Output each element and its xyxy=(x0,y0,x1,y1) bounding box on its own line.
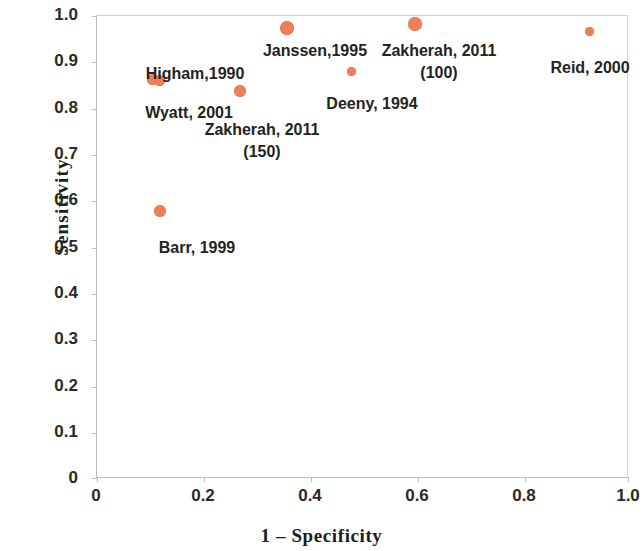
point-label-barr: Barr, 1999 xyxy=(117,238,277,257)
x-tick-label-0: 0 xyxy=(66,486,126,506)
x-tick-label-0.8: 0.8 xyxy=(494,486,554,506)
data-point-zakherah-150[interactable] xyxy=(234,85,246,97)
x-tick-mark-0.8 xyxy=(525,477,526,482)
point-label-zakherah-150-line2: (150) xyxy=(177,142,347,161)
y-tick-mark-1.0 xyxy=(92,16,97,17)
y-tick-mark-0.2 xyxy=(92,387,97,388)
y-tick-label-0.5: 0.5 xyxy=(30,237,78,257)
y-tick-label-0.9: 0.9 xyxy=(30,51,78,71)
y-tick-mark-0.1 xyxy=(92,433,97,434)
point-label-deeny: Deeny, 1994 xyxy=(287,94,457,113)
y-tick-mark-0.7 xyxy=(92,155,97,156)
y-tick-mark-0.4 xyxy=(92,294,97,295)
x-tick-label-0.6: 0.6 xyxy=(387,486,447,506)
point-label-reid: Reid, 2000 xyxy=(505,58,643,77)
data-point-reid[interactable] xyxy=(585,27,594,36)
y-tick-mark-0.6 xyxy=(92,201,97,202)
point-label-zakherah-100-line2: (100) xyxy=(354,63,524,82)
x-axis-title: 1 – Specificity xyxy=(0,525,643,547)
y-tick-label-0: 0 xyxy=(30,468,78,488)
y-tick-mark-0.3 xyxy=(92,340,97,341)
x-tick-mark-1.0 xyxy=(628,477,629,482)
data-point-janssen[interactable] xyxy=(280,21,294,35)
y-tick-label-0.7: 0.7 xyxy=(30,144,78,164)
y-tick-label-0.4: 0.4 xyxy=(30,283,78,303)
y-tick-mark-0.9 xyxy=(92,62,97,63)
data-point-barr[interactable] xyxy=(154,205,166,217)
point-label-zakherah-150-line1: Zakherah, 2011 xyxy=(177,120,347,139)
y-tick-label-0.6: 0.6 xyxy=(30,190,78,210)
y-tick-label-0.3: 0.3 xyxy=(30,329,78,349)
roc-scatter-figure: Sensitivity 1.0 0.9 0.8 0.7 0.6 0.5 0.4 … xyxy=(0,0,643,551)
data-point-zakherah-100[interactable] xyxy=(408,17,422,31)
x-tick-mark-0 xyxy=(97,477,98,482)
y-tick-mark-0.5 xyxy=(92,248,97,249)
x-tick-mark-0.6 xyxy=(418,477,419,482)
x-tick-label-1.0: 1.0 xyxy=(598,486,643,506)
x-tick-label-0.2: 0.2 xyxy=(173,486,233,506)
x-tick-mark-0.4 xyxy=(311,477,312,482)
point-label-higham: Higham,1990 xyxy=(115,64,275,83)
y-tick-label-0.8: 0.8 xyxy=(30,98,78,118)
y-tick-label-0.2: 0.2 xyxy=(30,376,78,396)
y-tick-label-0.1: 0.1 xyxy=(30,422,78,442)
y-tick-label-1.0: 1.0 xyxy=(30,5,78,25)
plot-area: Higham,1990 Wyatt, 2001 Barr, 1999 Zakhe… xyxy=(96,15,628,478)
point-label-zakherah-100-line1: Zakherah, 2011 xyxy=(354,41,524,60)
x-tick-label-0.4: 0.4 xyxy=(280,486,340,506)
x-tick-mark-0.2 xyxy=(204,477,205,482)
y-tick-mark-0.8 xyxy=(92,109,97,110)
